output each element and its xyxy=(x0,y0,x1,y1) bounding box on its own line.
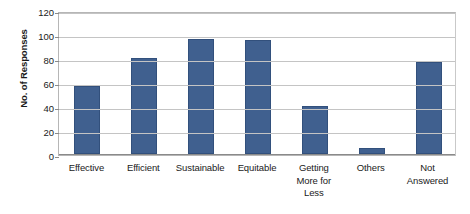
bar-chart: No. of Responses 020406080100120 Effecti… xyxy=(0,0,470,214)
y-axis-tick-labels: 020406080100120 xyxy=(24,6,54,158)
y-axis-tick-label: 40 xyxy=(24,103,54,114)
x-axis-category-label: Equitable xyxy=(229,162,286,175)
y-axis-tick-label: 120 xyxy=(24,7,54,18)
y-axis-tick-mark xyxy=(55,133,59,134)
x-axis-category-label-line: More for xyxy=(285,175,342,188)
y-axis-tick-mark xyxy=(55,85,59,86)
x-axis-category-label-line: Equitable xyxy=(229,162,286,175)
y-axis-tick-mark xyxy=(55,37,59,38)
gridline xyxy=(59,85,455,86)
x-axis-category-label-line: Answered xyxy=(399,175,456,188)
y-axis-tick-label: 60 xyxy=(24,79,54,90)
x-axis-category-label-line: Sustainable xyxy=(172,162,229,175)
x-axis-category-label-line: Getting xyxy=(285,162,342,175)
y-axis-tick-mark xyxy=(55,157,59,158)
y-axis-tick-label: 20 xyxy=(24,127,54,138)
x-axis-category-label-line: Less xyxy=(285,187,342,200)
x-axis-category-label: Sustainable xyxy=(172,162,229,175)
y-axis-tick-label: 0 xyxy=(24,151,54,162)
gridline xyxy=(59,37,455,38)
x-axis-category-label: Others xyxy=(342,162,399,175)
x-axis-category-label-line: Not xyxy=(399,162,456,175)
gridline xyxy=(59,109,455,110)
x-axis-category-label-line: Efficient xyxy=(115,162,172,175)
y-axis-tick-mark xyxy=(55,109,59,110)
bar xyxy=(74,86,100,154)
x-axis-category-label: GettingMore forLess xyxy=(285,162,342,200)
bar xyxy=(188,39,214,154)
gridline xyxy=(59,61,455,62)
x-axis-category-label: NotAnswered xyxy=(399,162,456,187)
x-axis-category-label: Efficient xyxy=(115,162,172,175)
x-axis-category-label-line: Others xyxy=(342,162,399,175)
bar xyxy=(302,106,328,154)
x-axis-category-label: Effective xyxy=(58,162,115,175)
y-axis-tick-mark xyxy=(55,61,59,62)
bar xyxy=(131,58,157,154)
bar xyxy=(245,40,271,154)
gridline xyxy=(59,133,455,134)
x-axis-category-label-line: Effective xyxy=(58,162,115,175)
gridline xyxy=(59,13,455,14)
y-axis-tick-label: 100 xyxy=(24,31,54,42)
y-axis-tick-label: 80 xyxy=(24,55,54,66)
x-axis-category-labels: EffectiveEfficientSustainableEquitableGe… xyxy=(58,162,456,212)
y-axis-tick-mark xyxy=(55,13,59,14)
bar xyxy=(416,62,442,154)
x-axis-baseline xyxy=(59,154,455,155)
plot-area xyxy=(58,12,456,156)
